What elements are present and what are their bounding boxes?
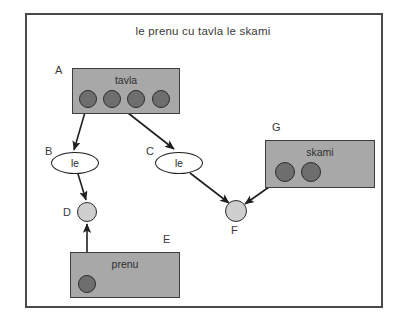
referent-node-D[interactable] [77, 202, 97, 222]
ellipse-node-label: le [71, 158, 79, 169]
ellipse-node-label: le [175, 158, 183, 169]
diagram-page: le prenu cu tavla le skami tavlaprenuska… [0, 0, 406, 325]
member-circle[interactable] [103, 90, 121, 108]
ellipse-node-B[interactable]: le [51, 152, 99, 174]
member-circle[interactable] [152, 90, 170, 108]
group-box-label: tavla [73, 74, 179, 86]
member-circle[interactable] [127, 90, 145, 108]
node-tag-A: A [55, 64, 62, 76]
member-circle[interactable] [78, 275, 96, 293]
node-tag-E: E [163, 233, 170, 245]
referent-node-F[interactable] [225, 200, 247, 222]
member-circle[interactable] [275, 162, 295, 182]
member-circle[interactable] [79, 90, 97, 108]
node-tag-G: G [272, 121, 281, 133]
node-tag-C: C [146, 145, 154, 157]
node-tag-B: B [45, 145, 52, 157]
diagram-title: le prenu cu tavla le skami [0, 25, 406, 37]
node-tag-D: D [63, 206, 71, 218]
group-box-label: prenu [71, 258, 179, 270]
ellipse-node-C[interactable]: le [155, 152, 203, 174]
member-circle[interactable] [301, 162, 321, 182]
node-tag-F: F [231, 224, 238, 236]
group-box-label: skami [266, 146, 374, 158]
